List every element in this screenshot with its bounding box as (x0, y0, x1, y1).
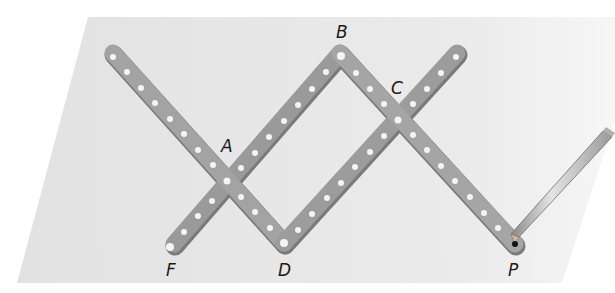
label-B: B (336, 22, 348, 42)
pantograph-diagram: B C A F D P (0, 0, 615, 293)
label-P: P (508, 260, 519, 280)
label-C: C (391, 78, 403, 98)
label-F: F (166, 260, 176, 280)
label-D: D (278, 260, 291, 280)
label-A: A (220, 136, 233, 156)
point-P-marker (512, 241, 518, 247)
